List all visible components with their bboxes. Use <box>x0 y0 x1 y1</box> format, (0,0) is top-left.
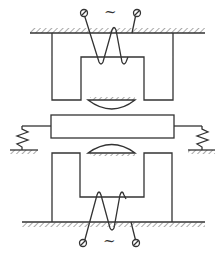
armature-bar <box>51 115 174 138</box>
bottom-core <box>52 153 172 222</box>
terminal-icon <box>81 10 88 17</box>
upper-pole-shoe <box>88 97 135 109</box>
lower-pole-shoe <box>88 145 135 157</box>
bottom-ac-symbol: ~ <box>103 234 116 249</box>
electromagnet-diagram <box>0 0 220 261</box>
top-ground <box>30 28 205 33</box>
right-spring-icon <box>174 126 215 154</box>
terminal-icon <box>134 10 141 17</box>
top-ac-symbol: ~ <box>104 5 117 20</box>
left-spring-icon <box>10 126 51 154</box>
terminal-icon <box>80 240 87 247</box>
bottom-ground <box>22 222 205 227</box>
top-core <box>52 33 173 100</box>
terminal-icon <box>133 240 140 247</box>
